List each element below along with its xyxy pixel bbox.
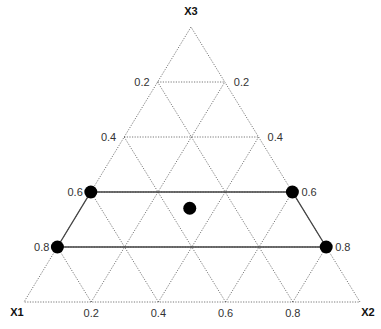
gridline-x2 <box>158 137 258 302</box>
gridline-x2 <box>293 247 326 302</box>
right-edge-tick: 0.2 <box>234 76 249 88</box>
point-left-upper <box>84 186 97 199</box>
point-right-lower <box>320 241 333 254</box>
left-edge-tick: 0.6 <box>68 186 83 198</box>
bottom-edge-tick: 0.8 <box>285 307 300 319</box>
triangle-outline <box>24 27 360 302</box>
point-right-upper <box>286 186 299 199</box>
left-edge-tick: 0.2 <box>134 76 149 88</box>
bottom-edge-tick: 0.6 <box>218 307 233 319</box>
ternary-diagram: X3X1X20.20.40.60.80.80.60.40.20.20.40.60… <box>0 0 381 329</box>
vertex-label-x3: X3 <box>184 5 197 17</box>
gridline-x1 <box>124 137 225 302</box>
bottom-edge-tick: 0.2 <box>84 307 99 319</box>
right-edge-tick: 0.6 <box>301 186 316 198</box>
bottom-edge-tick: 0.4 <box>151 307 166 319</box>
grid-lines <box>24 27 360 302</box>
region-boundary <box>57 192 326 247</box>
data-points <box>51 186 333 254</box>
gridline-x1 <box>57 247 91 302</box>
axis-labels: X3X1X20.20.40.60.80.80.60.40.20.20.40.60… <box>10 5 374 319</box>
right-edge-tick: 0.8 <box>335 241 350 253</box>
right-edge-tick: 0.4 <box>268 131 283 143</box>
point-centroid <box>183 202 196 215</box>
design-region <box>57 192 326 247</box>
point-left-lower <box>51 241 64 254</box>
vertex-label-x1: X1 <box>10 306 23 318</box>
vertex-label-x2: X2 <box>361 306 374 318</box>
left-edge-tick: 0.8 <box>34 241 49 253</box>
left-edge-tick: 0.4 <box>101 131 116 143</box>
